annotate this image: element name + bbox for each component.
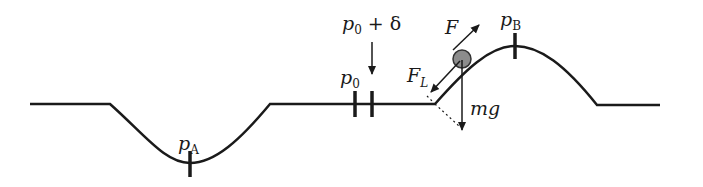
dotted-line-base bbox=[435, 104, 460, 127]
label-p-b: pB bbox=[500, 8, 521, 33]
arrow-force-fl-icon bbox=[431, 61, 460, 92]
potential-landscape-diagram: pA p0 p0 + δ pB F FL mg bbox=[0, 0, 703, 187]
label-gravity: mg bbox=[470, 97, 500, 119]
label-p-0: p0 bbox=[340, 66, 360, 91]
label-force-fl: FL bbox=[406, 64, 428, 90]
label-p-a: pA bbox=[178, 132, 199, 157]
label-p-0-plus-delta: p0 + δ bbox=[342, 12, 401, 37]
landscape-curve bbox=[30, 46, 660, 163]
label-force-f: F bbox=[444, 16, 459, 38]
